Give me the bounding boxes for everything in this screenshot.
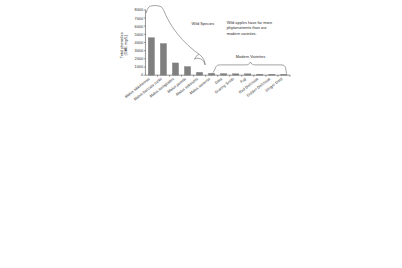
bar-fuji[interactable] [245, 74, 251, 75]
bars-group [148, 38, 287, 76]
y-tick-label: 6000 [135, 25, 143, 29]
callout-note-line-1: Wild apples have far more [227, 20, 272, 25]
y-tick-label: 4000 [135, 41, 143, 45]
bar-malus-pumila[interactable] [184, 67, 190, 76]
y-tick-label: 0 [141, 73, 143, 77]
wild-species-brace [146, 6, 205, 65]
bar-gala[interactable] [221, 74, 227, 76]
y-axis-ticks [144, 10, 146, 75]
bar-ginger-gold[interactable] [281, 74, 287, 75]
bar-granny-smith[interactable] [233, 74, 239, 75]
bar-red-delicious[interactable] [257, 74, 263, 75]
chart-figure: Total phenolics (GAE mg/L) 8000 7000 600… [0, 0, 402, 268]
bar-malus-sieversii[interactable] [208, 73, 214, 75]
x-label-fuji: Fuji [240, 77, 247, 84]
y-tick-label: 3000 [135, 49, 143, 53]
y-tick-label: 7000 [135, 17, 143, 21]
y-axis-title: Total phenolics (GAE mg/L) [119, 32, 129, 58]
bar-malus-sylvestris[interactable] [196, 72, 202, 75]
x-label-malus-sieversii: Malus sieversii [189, 77, 211, 96]
modern-varieties-label: Modern Varieties [236, 54, 265, 59]
wild-species-label: Wild Species [192, 21, 215, 26]
callout-note: Wild apples have far more phytonutrients… [227, 20, 272, 36]
bar-malus-sikkimensis[interactable] [148, 38, 154, 76]
y-tick-label: 2000 [135, 57, 143, 61]
x-axis-category-labels: Malus sikkimensis Malus baccata rockii M… [124, 76, 283, 101]
bar-chart-svg: Total phenolics (GAE mg/L) 8000 7000 600… [0, 0, 402, 125]
y-axis-tick-labels: 8000 7000 6000 5000 4000 3000 2000 1000 … [135, 8, 143, 77]
x-axis-ticks [157, 75, 290, 77]
callout-note-line-3: modern varieties. [227, 31, 257, 36]
x-label-gala: Gala [214, 76, 224, 85]
bar-golden-delicious[interactable] [269, 74, 275, 75]
modern-varieties-brace [213, 62, 286, 73]
bar-malus-baccata-rockii[interactable] [160, 43, 166, 75]
y-axis-title-line2: (GAE mg/L) [123, 34, 128, 55]
y-tick-label: 5000 [135, 33, 143, 37]
y-tick-label: 1000 [135, 65, 143, 69]
bar-malus-toringoides[interactable] [172, 63, 178, 75]
y-tick-label: 8000 [135, 8, 143, 12]
callout-note-line-2: phytonutrients than our [227, 25, 268, 30]
